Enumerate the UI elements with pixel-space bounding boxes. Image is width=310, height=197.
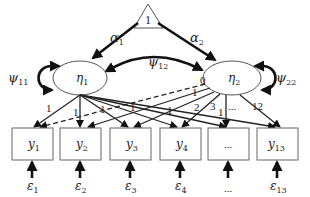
observed-variables: y1 y2 y3 y4 ... y13 <box>12 128 298 160</box>
variance-loop-eta2: ψ22 <box>262 66 296 90</box>
intercept-loadings: 1 1 1 1 1 1 <box>34 95 275 127</box>
observed-y4: y4 <box>160 128 201 160</box>
svg-text:ε4: ε4 <box>175 179 187 195</box>
svg-text:ε13: ε13 <box>270 179 287 195</box>
svg-text:α2: α2 <box>190 30 204 47</box>
svg-text:12: 12 <box>252 100 263 112</box>
svg-text:ε1: ε1 <box>27 179 39 195</box>
variance-loop-eta1: ψ11 <box>8 66 52 90</box>
error-terms: ε1 ε2 ε3 ε4 ... ε13 <box>27 162 287 195</box>
observed-y2: y2 <box>60 128 101 160</box>
svg-text:α1: α1 <box>110 30 124 47</box>
svg-text:...: ... <box>224 138 233 150</box>
latent-intercept: η1 <box>53 61 107 95</box>
svg-text:1: 1 <box>218 106 224 118</box>
svg-text:0: 0 <box>200 74 206 86</box>
svg-text:1: 1 <box>46 102 52 114</box>
svg-text:ψ22: ψ22 <box>276 70 296 87</box>
svg-text:ε3: ε3 <box>125 179 137 195</box>
svg-text:1: 1 <box>192 86 198 98</box>
svg-text:...: ... <box>224 182 233 194</box>
svg-text:1: 1 <box>100 103 106 115</box>
svg-text:...: ... <box>228 100 237 112</box>
svg-text:2: 2 <box>194 101 200 113</box>
observed-y3: y3 <box>110 128 151 160</box>
observed-y1: y1 <box>12 128 53 160</box>
latent-slope: η2 <box>203 61 261 95</box>
svg-text:1: 1 <box>73 106 79 118</box>
svg-text:ψ11: ψ11 <box>8 70 28 87</box>
svg-text:ε2: ε2 <box>75 179 87 195</box>
svg-text:3: 3 <box>210 100 216 112</box>
path-diagram: 1 α1 α2 ψ12 η1 η2 ψ11 ψ22 1 1 1 <box>0 0 310 197</box>
covariance-path: ψ12 <box>112 54 202 71</box>
svg-text:1: 1 <box>145 13 151 27</box>
observed-ellipsis: ... <box>208 128 249 160</box>
observed-y13: y13 <box>257 128 298 160</box>
